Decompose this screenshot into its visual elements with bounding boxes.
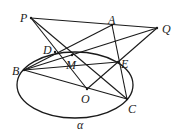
point-label-E: E xyxy=(121,58,128,70)
point-label-P: P xyxy=(20,12,27,24)
point-label-M: M xyxy=(66,59,76,71)
segment-OE xyxy=(87,62,118,89)
point-E xyxy=(117,61,119,63)
plane-label-alpha: α xyxy=(77,119,83,131)
point-label-Q: Q xyxy=(162,23,171,35)
point-label-C: C xyxy=(128,103,136,115)
segment-PQ xyxy=(31,18,157,28)
point-P xyxy=(30,17,32,19)
point-label-D: D xyxy=(43,44,52,56)
point-B xyxy=(23,69,25,71)
point-D xyxy=(54,51,56,53)
point-label-O: O xyxy=(81,93,90,105)
point-O xyxy=(86,88,88,90)
point-M xyxy=(71,54,73,56)
point-label-B: B xyxy=(12,65,19,77)
segment-PO xyxy=(31,18,87,89)
geometry-diagram: α PAQDMEBOC xyxy=(0,0,181,136)
point-Q xyxy=(156,27,158,29)
point-C xyxy=(126,98,128,100)
point-label-A: A xyxy=(108,14,115,26)
